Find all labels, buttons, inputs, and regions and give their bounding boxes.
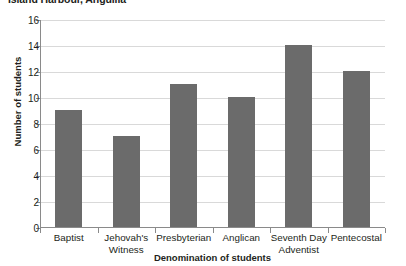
gridline <box>40 98 385 99</box>
x-axis-title: Denomination of students <box>40 252 385 263</box>
bar <box>285 45 312 227</box>
x-axis-label: Presbyterian <box>151 232 217 244</box>
plot-area: 0246810121416 <box>40 20 385 228</box>
gridline <box>40 150 385 151</box>
x-axis-label: Anglican <box>209 232 275 244</box>
bar <box>228 97 255 227</box>
gridline <box>40 124 385 125</box>
y-tick-label: 8 <box>9 119 39 130</box>
y-tick-label: 14 <box>9 41 39 52</box>
gridline <box>40 20 385 21</box>
bar <box>113 136 140 227</box>
x-axis-label: Baptist <box>36 232 102 244</box>
y-tick-label: 2 <box>9 197 39 208</box>
y-tick-label: 16 <box>9 15 39 26</box>
bar <box>55 110 82 227</box>
y-tick-label: 6 <box>9 145 39 156</box>
bar <box>343 71 370 227</box>
y-tick-label: 0 <box>9 223 39 234</box>
gridline <box>40 202 385 203</box>
gridline <box>40 176 385 177</box>
x-axis-label: Pentecostal <box>324 232 390 244</box>
gridline <box>40 72 385 73</box>
y-tick-label: 10 <box>9 93 39 104</box>
bar-chart-figure: Island Harbour, Anguilla Number of stude… <box>0 0 406 266</box>
gridline <box>40 46 385 47</box>
y-tick-label: 4 <box>9 171 39 182</box>
y-axis-line <box>40 20 41 228</box>
bar <box>170 84 197 227</box>
y-tick-label: 12 <box>9 67 39 78</box>
chart-title: Island Harbour, Anguilla <box>8 0 126 5</box>
